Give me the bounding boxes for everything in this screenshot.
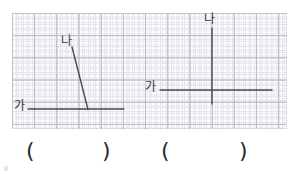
left-figure-label-na: 나 [61, 35, 72, 47]
answer-blank-1-open-paren: ( [26, 140, 35, 162]
answer-blank-2-close-paren: ) [239, 140, 248, 162]
answer-blank-2-open-paren: ( [161, 140, 170, 162]
answer-blank-1-close-paren: ) [102, 140, 111, 162]
worksheet-page: 나 가 나 가 ( ) ( ) [0, 0, 297, 174]
left-figure-label-ga: 가 [14, 100, 25, 112]
answer-blanks-row: ( ) ( ) [0, 134, 297, 168]
right-figure-label-na: 나 [204, 13, 215, 25]
right-figure-label-ga: 가 [145, 81, 156, 93]
page-corner-mark [4, 166, 8, 171]
graph-paper-grid [12, 13, 287, 129]
